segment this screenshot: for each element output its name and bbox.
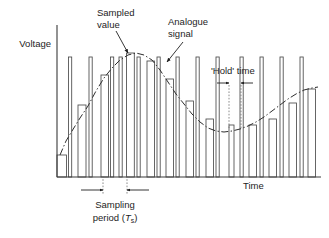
sample-bar (289, 103, 297, 177)
sample-bar (300, 57, 303, 177)
sample-bar (176, 57, 179, 177)
analogue-signal-label-line2: signal (168, 28, 193, 39)
sampled-value-annotation: Sampled value (97, 7, 135, 53)
sample-bar (269, 119, 277, 177)
sampled-value-label-line2: value (97, 19, 120, 30)
sample-bar (229, 125, 234, 177)
y-axis-label: Voltage (19, 38, 51, 49)
hold-time-label: 'Hold' time (211, 65, 255, 76)
sample-bar (249, 125, 257, 177)
sample-bar (101, 75, 109, 177)
analogue-signal-label-line1: Analogue (168, 16, 208, 27)
sampled-value-leader-arrow (116, 31, 128, 53)
sample-bar (111, 57, 114, 177)
sampled-value-bars (57, 53, 316, 177)
sample-bar (196, 57, 199, 177)
sample-bar (147, 61, 155, 177)
sampling-period-text-suffix: ) (134, 212, 137, 223)
sample-bar (57, 155, 67, 177)
sampling-period-label-line1: Sampling (95, 199, 135, 210)
sample-bar (206, 119, 214, 177)
analogue-signal-annotation: Analogue signal (167, 16, 208, 62)
sample-bar (89, 57, 92, 177)
sampled-value-label-line1: Sampled (97, 7, 135, 18)
sampling-period-annotation: Sampling period (Ts) (81, 176, 149, 224)
sample-bar (127, 53, 135, 177)
sample-bar (69, 57, 72, 177)
sample-bar (157, 57, 160, 177)
sample-bar (186, 101, 194, 177)
x-axis-label: Time (243, 180, 264, 191)
sample-bar (137, 57, 140, 177)
diagram-canvas: Voltage Time Sampled value Analogue sign… (0, 0, 329, 238)
sample-bar (260, 57, 263, 177)
sample-bar (308, 89, 316, 177)
sampling-period-label-line2: period (Ts) (93, 212, 138, 224)
sample-bar (119, 57, 122, 177)
sampling-diagram: Voltage Time Sampled value Analogue sign… (0, 0, 329, 238)
sample-bar (166, 79, 174, 177)
analogue-signal-leader-arrow (167, 42, 183, 62)
sampling-period-text-prefix: period ( (93, 212, 126, 223)
sample-bar (280, 57, 283, 177)
